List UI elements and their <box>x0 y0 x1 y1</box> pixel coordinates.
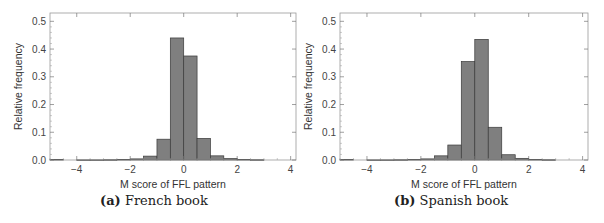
x-tick-label: 2 <box>234 164 240 175</box>
caption-tag: (a) <box>100 193 121 208</box>
y-axis-title: Relative frequency <box>302 42 314 130</box>
y-tick-label: 0.4 <box>322 44 336 55</box>
x-tick-label: −4 <box>71 164 83 175</box>
histogram-bar <box>434 156 447 160</box>
x-tick-label: 0 <box>472 164 478 175</box>
histogram-bar <box>144 156 157 160</box>
histogram-bar <box>502 155 515 160</box>
y-tick-label: 0.3 <box>322 71 336 82</box>
bars <box>340 39 556 160</box>
y-tick-label: 0.5 <box>32 16 46 27</box>
y-axis-title: Relative frequency <box>12 42 24 130</box>
histogram-bar <box>197 138 210 160</box>
histogram-bar <box>184 56 197 160</box>
panel-french: 0.00.10.20.30.40.5−4−2024M score of FFL … <box>0 0 302 223</box>
histogram-bar <box>475 39 488 160</box>
x-tick-label: −4 <box>361 164 373 175</box>
y-tick-label: 0.0 <box>32 155 46 166</box>
caption-spanish: (b) Spanish book <box>394 193 508 208</box>
caption-french: (a) French book <box>100 193 208 208</box>
histogram-bar <box>170 38 183 160</box>
bars <box>50 38 264 161</box>
histogram-bar <box>157 139 170 160</box>
x-tick-label: 4 <box>288 164 294 175</box>
x-axis-title: M score of FFL pattern <box>411 178 517 190</box>
histogram-bar <box>210 156 223 160</box>
x-tick-label: −2 <box>415 164 427 175</box>
histogram-spanish: 0.00.10.20.30.40.5−4−2024M score of FFL … <box>302 0 604 223</box>
x-tick-label: 4 <box>580 164 586 175</box>
y-tick-label: 0.0 <box>322 155 336 166</box>
x-tick-label: 2 <box>526 164 532 175</box>
caption-text: French book <box>125 193 208 208</box>
y-tick-label: 0.3 <box>32 71 46 82</box>
caption-tag: (b) <box>394 193 415 208</box>
y-axis: 0.00.10.20.30.40.5 <box>322 16 588 166</box>
x-tick-label: 0 <box>181 164 187 175</box>
y-tick-label: 0.2 <box>32 99 46 110</box>
panel-spanish: 0.00.10.20.30.40.5−4−2024M score of FFL … <box>302 0 604 223</box>
histogram-bar <box>448 145 461 160</box>
histogram-french: 0.00.10.20.30.40.5−4−2024M score of FFL … <box>0 0 302 223</box>
histogram-bar <box>461 62 474 160</box>
y-tick-label: 0.5 <box>322 16 336 27</box>
y-tick-label: 0.2 <box>322 99 336 110</box>
y-tick-label: 0.1 <box>32 127 46 138</box>
y-tick-label: 0.1 <box>322 127 336 138</box>
histogram-bar <box>488 127 501 160</box>
caption-text: Spanish book <box>420 193 509 208</box>
y-tick-label: 0.4 <box>32 44 46 55</box>
x-tick-label: −2 <box>125 164 137 175</box>
x-axis-title: M score of FFL pattern <box>120 178 226 190</box>
